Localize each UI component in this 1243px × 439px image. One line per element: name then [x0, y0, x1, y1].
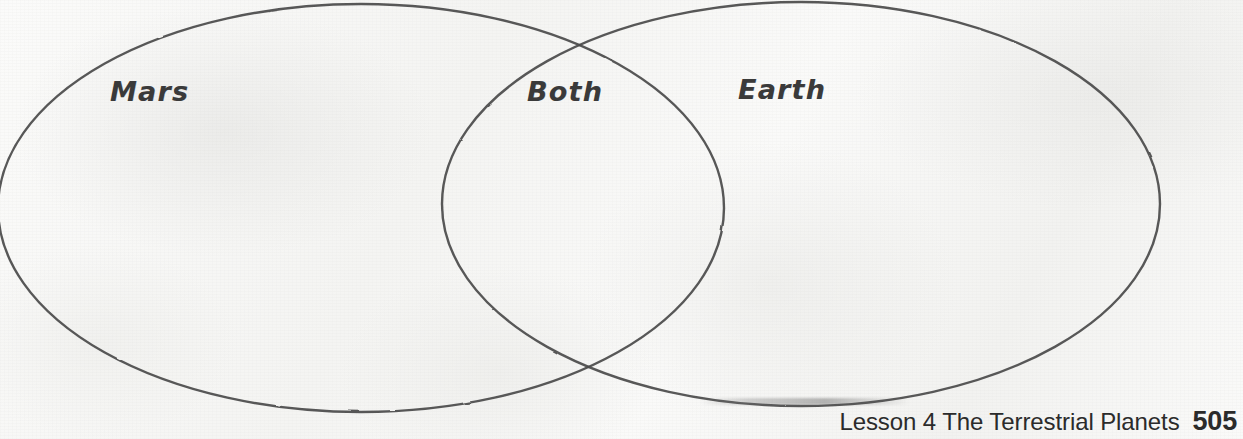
venn-diagram: [0, 0, 1243, 439]
venn-label-mars: Mars: [110, 76, 189, 107]
venn-label-both: Both: [527, 76, 603, 107]
footer-page-number: 505: [1193, 406, 1237, 437]
venn-label-earth: Earth: [738, 74, 826, 105]
page-canvas: Mars Both Earth Lesson 4 The Terrestrial…: [0, 0, 1243, 439]
mars-ellipse: [0, 4, 724, 412]
earth-ellipse: [442, 2, 1160, 406]
footer-lesson-title: Lesson 4 The Terrestrial Planets: [839, 408, 1179, 436]
page-footer: Lesson 4 The Terrestrial Planets 505: [839, 406, 1237, 437]
